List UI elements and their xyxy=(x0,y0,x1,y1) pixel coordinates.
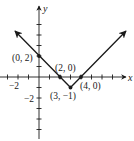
point-0-2 xyxy=(37,54,41,58)
point-label-4-0: (4, 0) xyxy=(80,81,101,92)
y-axis-label: y xyxy=(42,3,48,14)
x-axis-label: x xyxy=(127,72,133,83)
point-label-3-neg1: (3, −1) xyxy=(50,91,76,102)
x-axis xyxy=(0,75,126,80)
point-4-0 xyxy=(79,75,83,79)
y-tick-label-neg2: −2 xyxy=(24,94,34,104)
point-label-0-2: (0, 2) xyxy=(12,53,33,64)
graph-canvas: x y −2 −2 (0, 2) (2, 0) (3, −1) (4, 0) xyxy=(0,0,134,141)
x-tick-label-neg2: −2 xyxy=(9,81,19,91)
point-3-neg1 xyxy=(69,86,73,90)
point-label-2-0: (2, 0) xyxy=(55,63,76,74)
point-2-0 xyxy=(58,75,62,79)
y-axis xyxy=(37,6,42,139)
